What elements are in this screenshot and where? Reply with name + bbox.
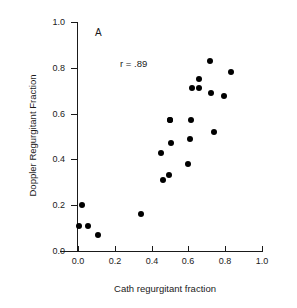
x-tick-label: 0.2 [98,256,132,266]
x-tick-label: 0.0 [61,256,95,266]
scatter-plot-figure: 0.00.20.40.60.81.0 0.00.20.40.60.81.0 A … [0,0,297,308]
data-point [158,150,164,156]
y-tick-label: 0.0 [35,246,65,256]
data-point [207,58,213,64]
y-tick-label: 0.4 [35,154,65,164]
data-point [138,211,144,217]
data-point [85,223,91,229]
y-tick-mark [71,205,77,206]
data-point [160,177,166,183]
x-tick-label: 0.4 [135,256,169,266]
panel-label: A [95,27,102,38]
x-axis-line [60,251,263,252]
y-tick-label: 0.8 [35,63,65,73]
y-tick-mark [71,114,77,115]
y-tick-label: 0.2 [35,200,65,210]
y-tick-mark [71,159,77,160]
data-point [187,136,193,142]
correlation-annotation: r = .89 [120,58,147,69]
x-tick-mark [262,246,263,251]
x-tick-label: 0.6 [171,256,205,266]
y-tick-mark [71,22,77,23]
y-tick-mark [71,68,77,69]
plot-data-area [78,22,262,251]
y-tick-mark [71,251,77,252]
data-point [76,223,82,229]
x-tick-label: 1.0 [245,256,279,266]
data-point [196,85,202,91]
y-axis-title: Doppler Regurgitant Fraction [27,21,38,251]
data-point [79,202,85,208]
x-tick-label: 0.8 [208,256,242,266]
y-tick-label: 1.0 [35,17,65,27]
y-tick-label: 0.6 [35,109,65,119]
x-axis-title: Cath regurgitant fraction [60,283,270,294]
